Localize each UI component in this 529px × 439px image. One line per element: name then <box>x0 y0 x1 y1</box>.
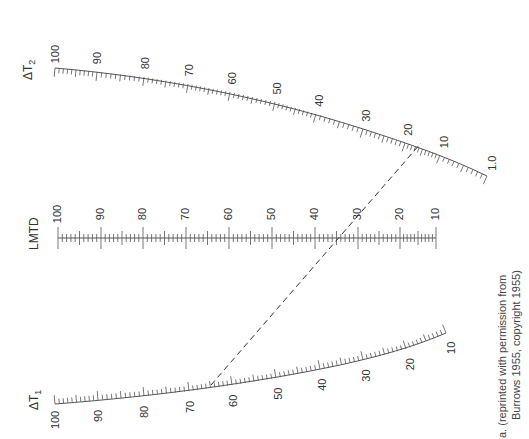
scale-label: 40 <box>313 94 325 106</box>
major-tick <box>274 369 276 378</box>
minor-tick <box>256 98 257 103</box>
minor-tick <box>148 78 149 83</box>
minor-tick <box>452 161 454 166</box>
minor-tick <box>353 357 354 362</box>
minor-tick <box>125 75 126 80</box>
scale-label: 60 <box>227 395 239 407</box>
scale-label: 10 <box>429 208 441 220</box>
scale-label: 80 <box>136 208 148 220</box>
minor-tick <box>152 78 153 83</box>
minor-tick <box>333 120 335 125</box>
minor-tick <box>315 365 316 370</box>
minor-tick <box>383 348 385 355</box>
minor-tick <box>387 137 389 142</box>
scale-label: 80 <box>138 406 150 418</box>
minor-tick <box>382 136 384 143</box>
dt1-labels: 100908070605040302010 <box>49 342 456 429</box>
minor-tick <box>366 130 368 135</box>
minor-tick <box>265 100 266 105</box>
minor-tick <box>156 79 157 84</box>
scale-label: 90 <box>94 208 106 220</box>
scale-label: 30 <box>360 110 372 122</box>
minor-tick <box>332 361 333 366</box>
minor-tick <box>184 387 185 392</box>
minor-tick <box>191 85 192 90</box>
scale-label: 90 <box>92 410 104 422</box>
dt1-scale: ΔT1 100908070605040302010 <box>27 325 457 429</box>
dt2-scale: ΔT2 1009080706050403020101.0 <box>21 45 498 184</box>
minor-tick <box>374 133 376 138</box>
minor-tick <box>358 356 359 361</box>
minor-tick <box>195 86 196 91</box>
minor-tick <box>288 370 289 375</box>
scale-label: 100 <box>49 411 61 429</box>
major-tick <box>143 387 144 396</box>
scale-label: 30 <box>351 208 363 220</box>
minor-tick <box>352 126 354 131</box>
major-tick <box>188 382 189 391</box>
figure-caption: a. (reprinted with permission from Burro… <box>496 270 522 438</box>
minor-tick <box>420 338 422 343</box>
scale-label: 10 <box>445 342 457 354</box>
minor-tick <box>152 390 153 395</box>
major-tick <box>483 176 487 184</box>
scale-label: 20 <box>404 358 416 370</box>
scale-label: 90 <box>91 52 103 64</box>
minor-tick <box>115 74 116 79</box>
minor-tick <box>466 168 468 173</box>
minor-tick <box>200 86 201 91</box>
major-tick <box>97 391 98 400</box>
minor-tick <box>76 395 77 402</box>
minor-tick <box>366 354 367 359</box>
minor-tick <box>225 91 226 96</box>
dt1-title: ΔT1 <box>27 390 43 410</box>
lmtd-nomograph: ΔT2 1009080706050403020101.0 LMTD 100908… <box>0 0 529 439</box>
scale-label: 80 <box>139 57 151 69</box>
minor-tick <box>216 90 217 95</box>
scale-label: 20 <box>402 124 414 136</box>
minor-tick <box>161 389 162 394</box>
minor-tick <box>204 87 205 92</box>
minor-tick <box>233 93 234 98</box>
major-tick <box>402 143 405 152</box>
minor-tick <box>260 99 261 104</box>
minor-tick <box>106 73 107 78</box>
minor-tick <box>134 76 135 81</box>
minor-tick <box>175 388 176 393</box>
minor-tick <box>347 125 349 130</box>
scale-label: 100 <box>49 45 61 63</box>
minor-tick <box>428 151 430 156</box>
minor-tick <box>157 390 158 395</box>
minor-tick <box>370 132 372 137</box>
dt2-title: ΔT2 <box>21 60 37 80</box>
scale-label: 1.0 <box>486 156 498 171</box>
lmtd-scale: LMTD 100908070605040302010 <box>27 205 441 250</box>
minor-tick <box>349 358 350 363</box>
minor-tick <box>183 83 184 88</box>
minor-tick <box>148 391 149 396</box>
minor-tick <box>139 77 140 82</box>
minor-tick <box>178 83 179 88</box>
minor-tick <box>166 387 167 394</box>
minor-tick <box>297 367 298 374</box>
minor-tick <box>420 149 422 156</box>
minor-tick <box>210 381 211 388</box>
minor-tick <box>286 106 287 111</box>
minor-tick <box>343 123 345 128</box>
minor-tick <box>212 89 213 94</box>
scale-label: 100 <box>51 205 63 223</box>
example-dashed-line <box>211 143 421 385</box>
scale-label: 20 <box>393 208 405 220</box>
minor-tick <box>242 95 243 100</box>
minor-tick <box>301 368 302 373</box>
minor-tick <box>423 335 426 341</box>
minor-tick <box>424 150 426 155</box>
lmtd-labels: 100908070605040302010 <box>51 205 441 223</box>
caption-line-1: a. (reprinted with permission from <box>496 275 508 438</box>
scale-label: 10 <box>438 136 450 148</box>
minor-tick <box>101 73 102 78</box>
minor-tick <box>170 388 171 393</box>
caption-line-2: Burrows 1955, copyright 1955) <box>510 270 522 420</box>
scale-label: 60 <box>226 72 238 84</box>
major-tick <box>313 114 316 123</box>
